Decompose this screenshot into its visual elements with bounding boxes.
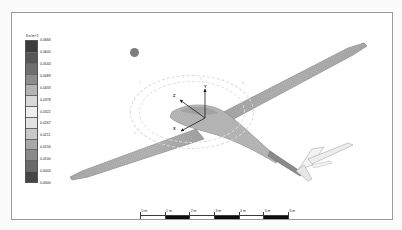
colorbar-tick-label: 0.0044 [40, 169, 51, 173]
colorbar-tick-label: 0.0489 [40, 74, 51, 78]
scale-bar-tick [140, 212, 141, 220]
colorbar-tick-label: 0.0267 [40, 121, 51, 125]
colorbar-tick-label: 0.0156 [40, 145, 51, 149]
gizmo-number-5: 5 [134, 131, 136, 135]
axis-x-line [181, 118, 205, 131]
scale-bar-label: 5 m [265, 209, 271, 213]
colorbar-cell [26, 52, 37, 63]
axis-label-z: Z [173, 93, 175, 98]
gizmo-number-3: 3 [200, 77, 202, 81]
scale-bar-tick [288, 212, 289, 220]
axis-label-y: Y [204, 84, 207, 89]
colorbar-cell [26, 171, 37, 182]
marker-dot[interactable] [130, 48, 139, 57]
colorbar-cell [26, 84, 37, 95]
colorbar-tick-label: 0.0378 [40, 98, 51, 102]
colorbar-tick-label: 0.0000 [40, 181, 51, 185]
scale-bar-tick [239, 212, 240, 220]
scale-bar-label: 6 m [290, 209, 296, 213]
scale-bar-label: 2 m [191, 209, 197, 213]
colorbar-tick-label: 0.0544 [40, 62, 51, 66]
colorbar-cell [26, 74, 37, 85]
colorbar-tick-label: 0.0600 [40, 50, 51, 54]
scale-bar-label: 1 m [166, 209, 172, 213]
colorbar-legend: Kn/m^2 0.06660.06000.05440.04890.04330.0… [23, 34, 75, 186]
colorbar-gradient [25, 40, 38, 183]
scale-bar-label: 4 m [240, 209, 246, 213]
scale-bar-tick [214, 212, 215, 220]
colorbar-tick-label: 0.0322 [40, 110, 51, 114]
tail-assembly [296, 143, 353, 181]
colorbar-cell [26, 160, 37, 171]
axis-label-x: X [173, 126, 176, 131]
gizmo-number-1: 1 [139, 81, 141, 85]
scale-bar: 0 m1 m2 m3 m4 m5 m6 m [140, 209, 288, 220]
colorbar-cell [26, 106, 37, 117]
scale-bar-segment [215, 216, 240, 219]
colorbar-cell [26, 95, 37, 106]
gizmo-number-4: 4 [242, 81, 244, 85]
scale-bar-tick [189, 212, 190, 220]
colorbar-cell [26, 128, 37, 139]
colorbar-tick-labels: 0.06660.06000.05440.04890.04330.03780.03… [40, 38, 74, 185]
model-viewport[interactable]: 1 2 3 4 5 6 Y Z X [11, 12, 393, 220]
colorbar-tick-label: 0.0666 [40, 38, 51, 42]
application-window: 1 2 3 4 5 6 Y Z X [0, 0, 402, 230]
colorbar-tick-label: 0.0211 [40, 133, 50, 137]
scale-bar-label: 3 m [216, 209, 222, 213]
scale-bar-tick [263, 212, 264, 220]
gizmo-number-2: 2 [182, 75, 184, 79]
colorbar-title: Kn/m^2 [26, 34, 39, 38]
colorbar-cell [26, 41, 37, 52]
colorbar-cell [26, 63, 37, 74]
scale-bar-segment [166, 216, 191, 219]
axis-z-line [180, 100, 205, 118]
scale-bar-label: 0 m [142, 209, 148, 213]
scale-bar-segment [264, 216, 289, 219]
colorbar-cell [26, 139, 37, 150]
axis-triad: Y Z X [164, 86, 224, 138]
colorbar-cell [26, 117, 37, 128]
colorbar-cell [26, 149, 37, 160]
gizmo-number-6: 6 [186, 141, 188, 145]
scale-bar-tick [165, 212, 166, 220]
colorbar-tick-label: 0.0100 [40, 157, 51, 161]
colorbar-tick-label: 0.0433 [40, 86, 51, 90]
